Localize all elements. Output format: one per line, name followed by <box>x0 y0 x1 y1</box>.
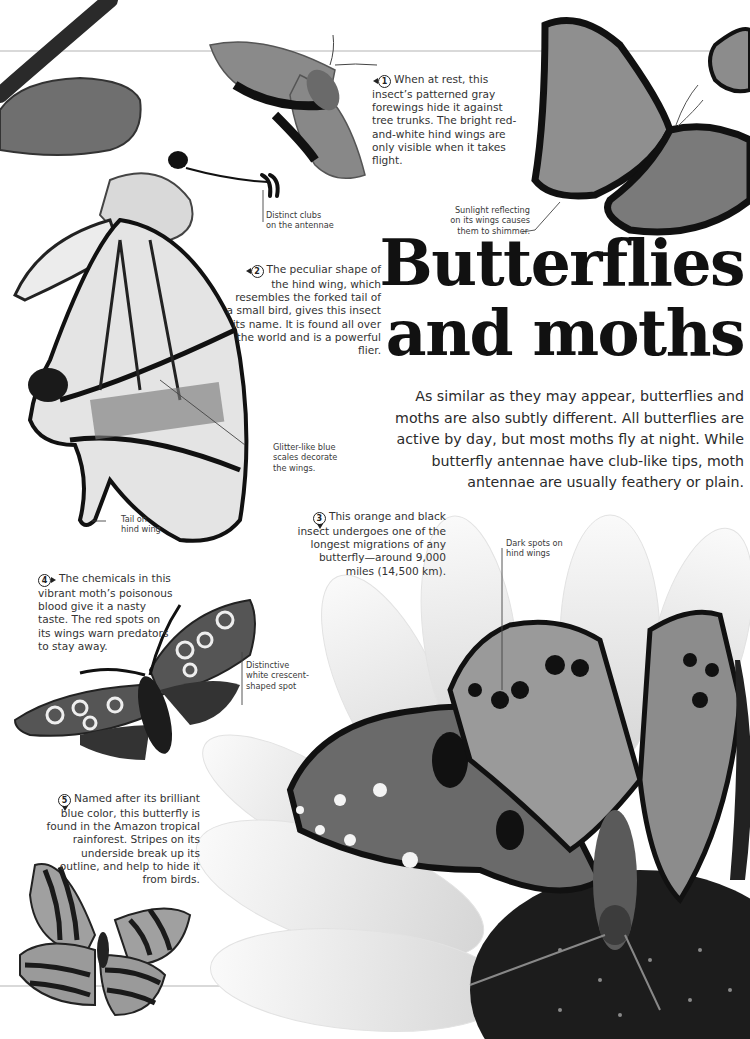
number-marker-5-icon: 5 <box>58 794 71 807</box>
morpho-butterfly-illustration <box>500 0 750 250</box>
caption-4-text: The chemicals in this vibrant moth’s poi… <box>38 572 173 652</box>
number-marker-3-icon: 3 <box>313 512 326 525</box>
label-dark-spots: Dark spots on hind wings <box>506 538 563 559</box>
caption-4: 4The chemicals in this vibrant moth’s po… <box>38 572 173 653</box>
title-line-2: and moths <box>379 298 744 368</box>
number-marker-1-icon: 1 <box>378 75 391 88</box>
number-marker-4-icon: 4 <box>38 574 51 587</box>
red-underwing-moth-illustration <box>205 35 375 185</box>
label-shimmer: Sunlight reflecting on its wings causes … <box>430 205 530 236</box>
number-marker-2-icon: 2 <box>251 265 264 278</box>
page-title: Butterflies and moths <box>379 228 744 368</box>
caption-5-text: Named after its brilliant blue color, th… <box>47 792 200 885</box>
label-antenna-clubs: Distinct clubs on the antennae <box>266 210 334 231</box>
caption-2-text: The peculiar shape of the hind wing, whi… <box>227 263 381 356</box>
caption-1: 1When at rest, this insect’s patterned g… <box>372 73 522 167</box>
intro-paragraph: As similar as they may appear, butterfli… <box>384 386 744 494</box>
label-glitter-scales: Glitter-like blue scales decorate the wi… <box>273 442 337 473</box>
caption-2: 2The peculiar shape of the hind wing, wh… <box>226 263 381 357</box>
title-line-1: Butterflies <box>379 228 744 298</box>
caption-5: 5Named after its brilliant blue color, t… <box>42 792 200 886</box>
caption-1-text: When at rest, this insect’s patterned gr… <box>372 73 516 166</box>
label-tail: Tail on hind wing <box>121 514 161 535</box>
label-crescent-spot: Distinctive white crescent- shaped spot <box>246 660 309 691</box>
caption-3: 3This orange and black insect undergoes … <box>296 510 446 578</box>
